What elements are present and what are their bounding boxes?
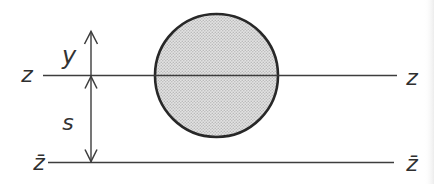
z-axis-label-right: z xyxy=(405,65,418,90)
zbar-axis-label-right: z̄ xyxy=(405,151,418,176)
page-edge-shading xyxy=(424,0,434,184)
s-dimension-label: s xyxy=(62,110,73,135)
figure-canvas: z z z̄ z̄ y s xyxy=(0,0,434,184)
z-axis-label-left: z xyxy=(20,62,33,87)
y-dimension-label: y xyxy=(61,42,77,70)
cross-section-diagram: z z z̄ z̄ y s xyxy=(0,0,434,184)
zbar-axis-label-left: z̄ xyxy=(32,150,45,175)
